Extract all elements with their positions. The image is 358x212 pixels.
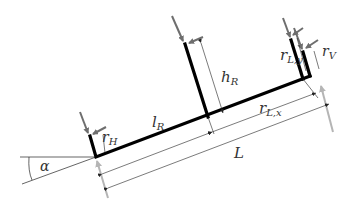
middle-vertical-force-arrow <box>172 16 183 41</box>
L-label: L <box>233 144 244 162</box>
r-V-label: rV <box>322 43 338 61</box>
r-V-dimension-line <box>314 51 319 69</box>
inclined-reference-line <box>22 157 96 184</box>
force-arrows <box>80 16 318 134</box>
beam-diagram: α <box>0 0 358 212</box>
alpha-label: α <box>40 158 50 174</box>
l-R-label: lR <box>152 113 165 132</box>
right-reaction-arrow <box>321 86 333 132</box>
angle-reference: α <box>20 157 96 184</box>
left-reaction-arrow <box>97 161 108 198</box>
l-R-dimension-line <box>102 132 212 174</box>
L-dimension-line <box>108 104 329 188</box>
h-R-label: hR <box>221 68 239 87</box>
r-H-label: rH <box>102 129 118 147</box>
right-horizontal-force-arrow-2 <box>306 40 318 48</box>
angle-arc <box>29 157 32 180</box>
r-Ly-label: rL,y <box>280 46 303 65</box>
beam-structure <box>90 40 310 157</box>
middle-horizontal-force-arrow <box>189 37 203 43</box>
r-Lx-label: rL,x <box>259 99 282 118</box>
right-vertical-force-arrow-1 <box>283 18 290 37</box>
left-vertical-force-arrow <box>80 112 88 133</box>
